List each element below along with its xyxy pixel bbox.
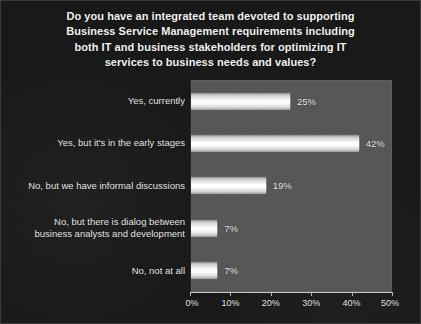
bar-no-dialog-between <box>190 219 218 238</box>
bar-row: 7% <box>190 250 392 292</box>
chart-title-line-2: Business Service Management requirements… <box>24 24 397 39</box>
category-label-line: No, but there is dialog between <box>54 216 185 229</box>
category-label-line: business analysts and development <box>34 228 185 241</box>
category-label-no-not-at-all: No, not at all <box>0 250 185 292</box>
x-axis-tick <box>190 293 191 296</box>
chart-title-line-3: both IT and business stakeholders for op… <box>24 40 397 55</box>
category-axis-labels: Yes, currently Yes, but it's in the earl… <box>0 80 185 292</box>
bar-value-label: 7% <box>224 223 238 234</box>
chart-title-line-1: Do you have an integrated team devoted t… <box>24 9 397 24</box>
x-axis-tick <box>311 293 312 296</box>
category-label-no-dialog-between: No, but there is dialog between business… <box>0 207 185 249</box>
bar-row: 19% <box>190 165 392 207</box>
x-axis-tick <box>352 293 353 296</box>
bar-value-label: 7% <box>224 265 238 276</box>
x-axis-tick <box>230 293 231 296</box>
bar-row: 7% <box>190 207 392 249</box>
bar-yes-currently <box>190 92 291 111</box>
x-axis-tick-label: 0% <box>185 298 198 308</box>
x-axis-tick-label: 30% <box>302 298 320 308</box>
x-axis-tick <box>392 293 393 296</box>
category-label-line: Yes, currently <box>128 95 185 108</box>
x-axis-tick-label: 20% <box>262 298 280 308</box>
bar-no-informal-discussions <box>190 176 267 195</box>
x-axis-tick-label: 40% <box>343 298 361 308</box>
category-label-no-informal-discussions: No, but we have informal discussions <box>0 165 185 207</box>
category-label-line: Yes, but it's in the early stages <box>57 137 185 150</box>
bar-row: 42% <box>190 122 392 164</box>
x-axis-tick <box>271 293 272 296</box>
y-axis-line <box>190 80 191 293</box>
chart-screenshot: Do you have an integrated team devoted t… <box>0 0 421 324</box>
category-label-line: No, not at all <box>132 265 185 278</box>
bar-value-label: 42% <box>366 138 385 149</box>
chart-title-line-4: services to business needs and values? <box>24 55 397 70</box>
plot-area: 25% 42% 19% 7% 7% <box>190 80 392 292</box>
x-axis-line <box>190 292 393 293</box>
x-axis-tick-label: 10% <box>221 298 239 308</box>
bar-value-label: 25% <box>297 96 316 107</box>
category-label-yes-early-stages: Yes, but it's in the early stages <box>0 122 185 164</box>
bar-no-not-at-all <box>190 261 218 280</box>
bar-row: 25% <box>190 80 392 122</box>
category-label-yes-currently: Yes, currently <box>0 80 185 122</box>
category-label-line: No, but we have informal discussions <box>28 180 185 193</box>
x-axis-tick-label: 50% <box>381 298 399 308</box>
chart-title: Do you have an integrated team devoted t… <box>24 9 397 71</box>
bar-value-label: 19% <box>273 180 292 191</box>
bar-yes-early-stages <box>190 134 360 153</box>
